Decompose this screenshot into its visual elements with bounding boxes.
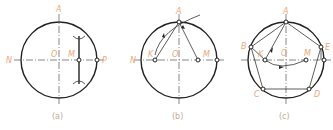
arrow-left-b <box>162 33 165 38</box>
label-A-a: A <box>55 5 61 14</box>
point-P-b <box>215 58 219 62</box>
caption-b: (b) <box>172 112 183 121</box>
label-M-c: M <box>304 49 311 58</box>
label-N-a: N <box>6 56 12 65</box>
point-K-c <box>263 58 267 62</box>
point-M-b <box>196 58 200 62</box>
arrow-arc-c <box>279 66 284 69</box>
label-D: D <box>314 90 320 99</box>
label-O-c: O <box>281 49 287 58</box>
caption-c: (c) <box>279 112 290 121</box>
label-M-b: M <box>203 50 210 59</box>
label-K-c: K <box>258 50 264 59</box>
point-A-c <box>284 20 288 24</box>
point-E <box>319 45 323 49</box>
point-M-a <box>77 58 81 62</box>
point-D <box>307 87 311 91</box>
label-M-a: M <box>68 50 75 59</box>
panel-c: A B E K O M C D (c) <box>241 7 331 121</box>
point-C <box>261 87 265 91</box>
point-M-c <box>304 58 308 62</box>
panel-b: A N K O M (b) <box>130 7 224 121</box>
panel-a: A N O M P (a) <box>6 5 107 121</box>
point-P-c <box>322 58 326 62</box>
label-E: E <box>325 43 331 52</box>
label-O-b: O <box>172 50 178 59</box>
label-P-a: P <box>102 56 107 65</box>
point-K-b <box>153 58 157 62</box>
point-A-b <box>177 20 181 24</box>
label-A-b: A <box>175 7 181 16</box>
arc-K-M <box>265 60 306 66</box>
label-O-a: O <box>51 50 57 59</box>
caption-a: (a) <box>52 112 63 121</box>
point-P-a <box>95 58 99 62</box>
label-A-c: A <box>282 7 288 16</box>
pentagon-construction-figure: A N O M P (a) A N K O M (b) <box>0 0 333 130</box>
label-C: C <box>254 90 260 99</box>
label-N-b: N <box>130 56 136 65</box>
label-B: B <box>241 42 247 51</box>
point-B <box>249 45 253 49</box>
label-K-b: K <box>148 50 154 59</box>
